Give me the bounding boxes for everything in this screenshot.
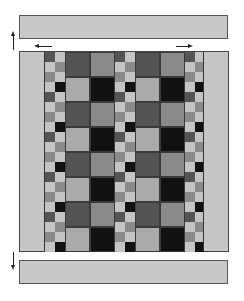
block-column-1 [65, 52, 115, 251]
quilt-block [160, 52, 185, 77]
sashing-square [115, 212, 125, 222]
sashing-square [185, 182, 195, 192]
sashing-square [185, 222, 195, 232]
sashing-square [115, 112, 125, 122]
sashing-square [115, 62, 125, 72]
down-arrow-head [11, 265, 15, 270]
sashing-square [55, 92, 65, 102]
sashing-square [55, 122, 65, 132]
sashing-square [185, 72, 195, 82]
sashing-square [125, 82, 135, 92]
right-arrow-icon [176, 46, 188, 47]
sashing-square [45, 52, 55, 62]
sashing-square [115, 132, 125, 142]
sashing-square [115, 222, 125, 232]
sashing-square [125, 62, 135, 72]
sashing-square [125, 192, 135, 202]
sashing-square [55, 222, 65, 232]
sashing-square [115, 152, 125, 162]
quilt-block [135, 177, 160, 202]
sashing-square [125, 102, 135, 112]
sashing-square [125, 182, 135, 192]
quilt-block [160, 227, 185, 252]
sashing-square [115, 52, 125, 62]
sashing-square [125, 242, 135, 252]
sashing-right [185, 52, 205, 251]
sashing-square [45, 182, 55, 192]
quilt-block [90, 202, 115, 227]
sashing-square [55, 192, 65, 202]
sashing-square [125, 172, 135, 182]
sashing-square [115, 242, 125, 252]
sashing-square [185, 132, 195, 142]
sashing-square [185, 172, 195, 182]
right-arrow-head [188, 44, 193, 48]
sashing-square [45, 122, 55, 132]
left-arrow-head [34, 44, 39, 48]
right-border-strip [203, 52, 228, 251]
sashing-square [55, 242, 65, 252]
sashing-square [125, 52, 135, 62]
sashing-square [125, 92, 135, 102]
block-column-2 [135, 52, 185, 251]
quilt-block [65, 152, 90, 177]
sashing-square [55, 162, 65, 172]
quilt-block [65, 127, 90, 152]
sashing-square [45, 162, 55, 172]
sashing-square [185, 122, 195, 132]
sashing-square [45, 62, 55, 72]
sashing-square [45, 232, 55, 242]
quilt-block [160, 202, 185, 227]
sashing-middle [115, 52, 135, 251]
sashing-square [115, 72, 125, 82]
bottom-bar [19, 260, 228, 284]
quilt-block [135, 152, 160, 177]
quilt-block [160, 177, 185, 202]
quilt-block [135, 202, 160, 227]
sashing-square [115, 82, 125, 92]
sashing-square [115, 142, 125, 152]
quilt-block [65, 177, 90, 202]
quilt-block [160, 152, 185, 177]
sashing-square [125, 162, 135, 172]
quilt-block [90, 102, 115, 127]
quilt-block [135, 127, 160, 152]
sashing-square [55, 62, 65, 72]
sashing-square [125, 122, 135, 132]
sashing-square [185, 202, 195, 212]
sashing-square [45, 192, 55, 202]
sashing-square [45, 92, 55, 102]
sashing-square [55, 142, 65, 152]
sashing-square [125, 202, 135, 212]
left-border-strip [20, 52, 45, 251]
sashing-square [45, 242, 55, 252]
sashing-square [185, 242, 195, 252]
quilt-block [160, 77, 185, 102]
quilt-block [135, 52, 160, 77]
sashing-square [185, 102, 195, 112]
sashing-square [55, 182, 65, 192]
quilt-body [19, 51, 229, 252]
sashing-square [45, 172, 55, 182]
up-arrow-icon [13, 34, 14, 50]
left-arrow-icon [38, 46, 52, 47]
top-bar [19, 15, 228, 39]
sashing-square [55, 52, 65, 62]
sashing-square [45, 102, 55, 112]
sashing-square [185, 52, 195, 62]
sashing-square [185, 162, 195, 172]
sashing-square [115, 182, 125, 192]
sashing-square [115, 102, 125, 112]
sashing-square [185, 232, 195, 242]
sashing-square [55, 202, 65, 212]
sashing-square [125, 112, 135, 122]
quilt-block [65, 202, 90, 227]
quilt-block [65, 102, 90, 127]
sashing-square [115, 172, 125, 182]
down-arrow-icon [13, 252, 14, 266]
sashing-square [125, 142, 135, 152]
sashing-left [45, 52, 65, 251]
quilt-block [90, 52, 115, 77]
quilt-block [65, 77, 90, 102]
quilt-block [90, 177, 115, 202]
